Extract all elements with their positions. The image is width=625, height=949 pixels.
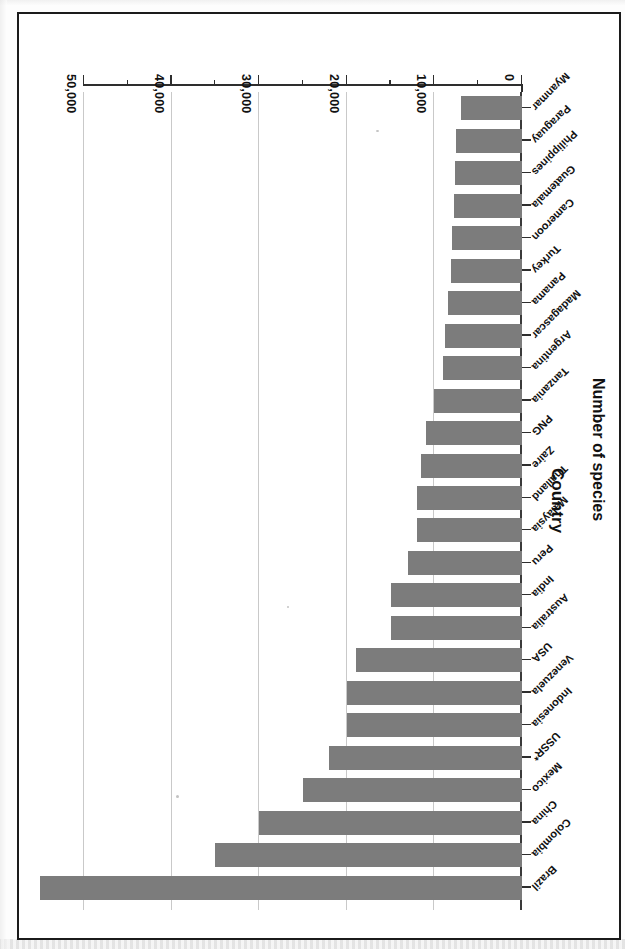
bar-thailand	[417, 486, 522, 510]
category-tick	[522, 334, 531, 335]
category-tick	[522, 172, 531, 173]
bar-peru	[408, 551, 522, 575]
scan-artifact-bottom	[0, 0, 625, 6]
scan-speck	[376, 130, 379, 132]
bar-madagascar	[445, 324, 522, 348]
category-tick	[522, 627, 531, 628]
scanned-page: 010,00020,00030,00040,00050,000 Number o…	[0, 0, 625, 949]
bar-series	[84, 92, 522, 904]
bar-row	[84, 129, 522, 153]
tick-major-0	[521, 75, 522, 86]
tick-major-30000	[258, 75, 259, 86]
bar-tanzania	[434, 389, 522, 413]
plot-area	[84, 92, 522, 904]
bar-australia	[391, 616, 522, 640]
tick-label-10000: 10,000	[414, 74, 428, 113]
category-tick	[522, 724, 531, 725]
tick-minor-5000	[477, 80, 478, 86]
value-axis	[84, 84, 522, 86]
category-label-brazil: Brazil	[530, 828, 595, 893]
bar-mexico	[303, 778, 522, 802]
bar-png	[426, 421, 522, 445]
bar-row	[84, 226, 522, 250]
bar-row	[84, 811, 522, 835]
category-tick	[522, 854, 531, 855]
tick-label-20000: 20,000	[327, 74, 341, 113]
bar-row	[84, 648, 522, 672]
bar-turkey	[451, 259, 522, 283]
bar-guatemala	[454, 194, 522, 218]
figure-frame: 010,00020,00030,00040,00050,000 Number o…	[17, 12, 621, 940]
bar-row	[84, 746, 522, 770]
category-tick	[522, 399, 531, 400]
category-tick	[522, 302, 531, 303]
bar-malaysia	[417, 518, 522, 542]
bar-zaire	[421, 454, 522, 478]
tick-minor-45000	[127, 80, 128, 86]
bar-china	[259, 811, 522, 835]
category-tick	[522, 821, 531, 822]
tick-label-50000: 50,000	[64, 74, 78, 113]
bar-row	[84, 96, 522, 120]
scan-speck	[287, 606, 289, 608]
bar-colombia	[215, 843, 522, 867]
bar-row	[84, 389, 522, 413]
bar-row	[84, 259, 522, 283]
bar-row	[84, 616, 522, 640]
bar-panama	[448, 291, 522, 315]
tick-major-10000	[433, 75, 434, 86]
category-tick	[522, 367, 531, 368]
bar-myanmar	[461, 96, 522, 120]
bar-row	[84, 778, 522, 802]
bar-brazil	[40, 876, 522, 900]
bar-row	[84, 356, 522, 380]
bar-row	[84, 194, 522, 218]
bar-row	[84, 681, 522, 705]
bar-row	[84, 421, 522, 445]
tick-minor-25000	[302, 80, 303, 86]
bar-argentina	[443, 356, 522, 380]
category-tick	[522, 139, 531, 140]
category-tick	[522, 756, 531, 757]
bar-row	[84, 161, 522, 185]
tick-label-40000: 40,000	[152, 74, 166, 113]
tick-label-30000: 30,000	[239, 74, 253, 113]
category-tick	[522, 562, 531, 563]
bar-row	[84, 454, 522, 478]
bar-row	[84, 486, 522, 510]
bar-row	[84, 324, 522, 348]
tick-minor-15000	[389, 80, 390, 86]
tick-label-0: 0	[502, 74, 516, 81]
bar-paraguay	[456, 129, 522, 153]
bar-row	[84, 551, 522, 575]
bar-row	[84, 713, 522, 737]
bar-usa	[356, 648, 522, 672]
category-tick	[522, 529, 531, 530]
category-tick	[522, 269, 531, 270]
category-tick	[522, 432, 531, 433]
tick-major-50000	[83, 75, 84, 86]
category-tick	[522, 692, 531, 693]
category-tick	[522, 107, 531, 108]
scan-speck	[176, 795, 179, 798]
tick-major-20000	[346, 75, 347, 86]
bar-venezuela	[347, 681, 522, 705]
bar-philippines	[455, 161, 522, 185]
category-tick	[522, 789, 531, 790]
tick-major-40000	[170, 75, 171, 86]
bar-india	[391, 583, 522, 607]
category-axis-title: Country	[547, 468, 567, 533]
scan-artifact-side	[0, 0, 7, 949]
tick-minor-35000	[214, 80, 215, 86]
category-tick	[522, 659, 531, 660]
category-tick	[522, 237, 531, 238]
bar-row	[84, 843, 522, 867]
bar-indonesia	[347, 713, 522, 737]
bar-row	[84, 876, 522, 900]
bar-ussr-	[329, 746, 522, 770]
bar-row	[84, 291, 522, 315]
category-tick	[522, 464, 531, 465]
category-tick	[522, 594, 531, 595]
category-tick	[522, 204, 531, 205]
category-tick	[522, 886, 531, 887]
